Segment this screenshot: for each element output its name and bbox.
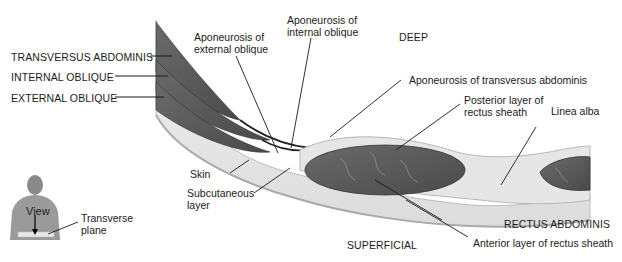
label-skin: Skin (190, 168, 210, 180)
label-superficial: SUPERFICIAL (347, 239, 417, 251)
label-external-oblique: EXTERNAL OBLIQUE (11, 92, 117, 104)
label-aponeurosis-external-oblique: Aponeurosis of external oblique (194, 31, 268, 55)
label-subcutaneous-layer: Subcutaneous layer (187, 187, 254, 211)
label-linea-alba: Linea alba (551, 105, 599, 117)
label-anterior-rectus-sheath: Anterior layer of rectus sheath (473, 237, 613, 249)
label-rectus-abdominis: RECTUS ABDOMINIS (504, 218, 610, 230)
rectus-abdominis-muscle (305, 145, 465, 195)
label-view: View (26, 205, 50, 217)
label-transversus-abdominis: TRANSVERSUS ABDOMINIS (11, 51, 153, 63)
label-aponeurosis-transversus: Aponeurosis of transversus abdominis (409, 74, 587, 86)
label-posterior-rectus-sheath: Posterior layer of rectus sheath (464, 94, 543, 118)
label-transverse-plane: Transverse plane (81, 212, 133, 236)
label-deep: DEEP (399, 31, 428, 43)
label-aponeurosis-internal-oblique: Aponeurosis of internal oblique (287, 14, 358, 38)
label-internal-oblique: INTERNAL OBLIQUE (11, 71, 114, 83)
